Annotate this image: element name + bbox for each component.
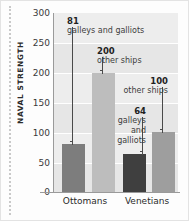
- y-tick-label-200: 200: [33, 68, 50, 78]
- annotation-value-200: 200: [97, 46, 142, 56]
- leader-arrow-ottomans-galleys: [70, 141, 73, 142]
- annotation-text-200: other ships: [97, 56, 142, 66]
- leader-line-ottomans-galleys: [72, 27, 73, 145]
- annotation-ottomans-galleys: 81 galleys and galliots: [67, 16, 144, 36]
- bar-venetians-galleys-and-galliots: [123, 154, 146, 192]
- annotation-text-64-l3: galliots: [117, 136, 146, 146]
- annotation-value-64: 64: [117, 106, 146, 116]
- x-axis-line: [40, 192, 180, 193]
- y-tick-label-150: 150: [33, 98, 50, 108]
- bar-venetians-other-ships: [152, 132, 175, 192]
- leader-arrow-venetians-other: [160, 129, 163, 130]
- annotation-text-64-l2: and: [117, 126, 146, 136]
- x-tick-label-venetians: Venetians: [116, 196, 178, 206]
- x-tick-label-ottomans: Ottomans: [54, 196, 116, 206]
- annotation-text-64-l1: galleys: [117, 116, 146, 126]
- y-tick-label-50: 50: [39, 158, 50, 168]
- bar-ottomans-other-ships: [92, 73, 115, 192]
- annotation-value-100: 100: [123, 76, 168, 86]
- annotation-text-100: other ships: [123, 86, 168, 96]
- y-axis-ticks: 300 250 200 150 100 50 0: [22, 0, 50, 221]
- y-tick-label-250: 250: [33, 38, 50, 48]
- y-tick-label-100: 100: [33, 128, 50, 138]
- left-dotted-rule: [9, 6, 11, 215]
- annotation-venetians-galleys: 64 galleys and galliots: [117, 106, 146, 146]
- leader-arrow-ottomans-other: [100, 70, 103, 71]
- chart-figure: NAVAL STRENGTH 300 250 200 150 100 50 0: [0, 0, 189, 221]
- plot-area: 81 galleys and galliots 200 other ships …: [54, 13, 178, 192]
- annotation-value-81: 81: [67, 16, 144, 26]
- annotation-ottomans-other: 200 other ships: [97, 46, 142, 66]
- y-tick-label-300: 300: [33, 8, 50, 18]
- leader-arrow-venetians-galleys: [140, 151, 143, 152]
- annotation-text-81: galleys and galliots: [67, 26, 144, 36]
- annotation-venetians-other: 100 other ships: [123, 76, 168, 96]
- bar-ottomans-galleys-and-galliots: [62, 144, 85, 192]
